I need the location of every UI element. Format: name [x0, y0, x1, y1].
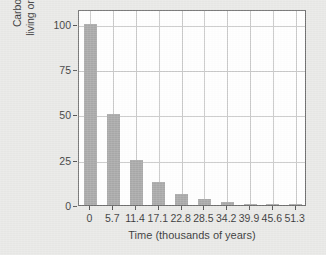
bar — [175, 194, 188, 205]
gridline-vertical — [204, 11, 205, 205]
gridline-vertical — [159, 11, 160, 205]
bar — [266, 204, 279, 205]
y-tick-mark — [73, 70, 77, 71]
x-tick-label: 51.3 — [275, 212, 315, 224]
y-tick-mark — [73, 115, 77, 116]
gridline-vertical — [227, 11, 228, 205]
x-tick-mark — [226, 206, 227, 210]
gridline-vertical — [273, 11, 274, 205]
y-axis-title-line-2: living organism's C-14 to C-12 ratio) — [24, 0, 37, 36]
x-tick-mark — [181, 206, 182, 210]
x-tick-mark — [158, 206, 159, 210]
y-tick-label: 100 — [45, 20, 71, 31]
gridline-vertical — [296, 11, 297, 205]
bar — [198, 199, 211, 205]
carbon-14-decay-chart: Carbon-14 radioactivity (as % of living … — [0, 0, 326, 255]
bar — [244, 204, 257, 205]
bar — [84, 24, 97, 205]
x-tick-mark — [249, 206, 250, 210]
x-tick-mark — [295, 206, 296, 210]
y-tick-label: 0 — [45, 201, 71, 212]
y-tick-label: 25 — [45, 156, 71, 167]
bar — [289, 204, 302, 205]
x-tick-mark — [135, 206, 136, 210]
bar — [130, 160, 143, 205]
x-axis-title: Time (thousands of years) — [78, 229, 306, 241]
gridline-vertical — [182, 11, 183, 205]
y-axis-title: Carbon-14 radioactivity (as % of living … — [6, 0, 42, 50]
x-tick-mark — [89, 206, 90, 210]
x-tick-mark — [203, 206, 204, 210]
plot-area — [78, 10, 306, 206]
bar — [107, 114, 120, 205]
bar — [221, 202, 234, 205]
x-tick-mark — [272, 206, 273, 210]
y-axis-title-line-1: Carbon-14 radioactivity (as % of — [11, 0, 24, 27]
y-tick-label: 50 — [45, 110, 71, 121]
gridline-vertical — [250, 11, 251, 205]
y-tick-label: 75 — [45, 65, 71, 76]
y-tick-mark — [73, 206, 77, 207]
y-tick-mark — [73, 25, 77, 26]
x-tick-mark — [112, 206, 113, 210]
y-tick-mark — [73, 161, 77, 162]
bar — [152, 182, 165, 205]
